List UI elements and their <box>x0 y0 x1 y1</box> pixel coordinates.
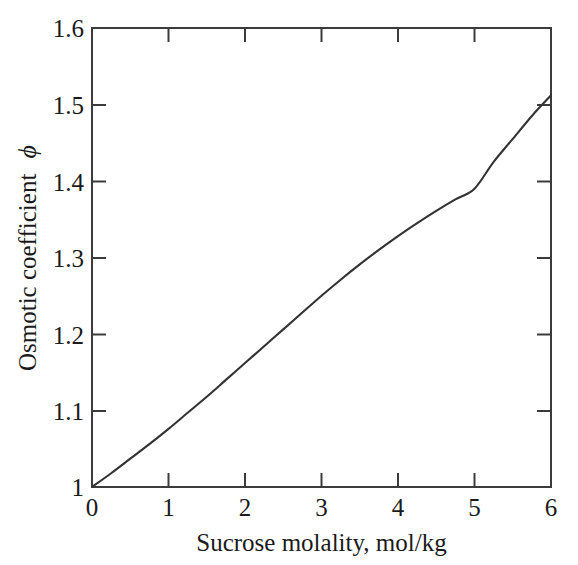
y-tick-label-1-1: 1.1 <box>53 398 84 425</box>
chart-background <box>0 0 578 565</box>
x-tick-label-4: 4 <box>392 494 405 521</box>
y-axis-title: Osmotic coefficient ϕ <box>13 145 42 371</box>
y-tick-label-1-4: 1.4 <box>53 169 85 196</box>
osmotic-coefficient-line-chart: 1.6 1.5 1.4 1.3 1.2 1.1 1 0 1 2 3 4 5 6 … <box>0 0 578 565</box>
x-tick-label-1: 1 <box>162 494 175 521</box>
x-tick-label-0: 0 <box>86 494 99 521</box>
x-axis-title: Sucrose molality, mol/kg <box>196 529 447 556</box>
y-axis-title-symbol: ϕ <box>13 145 42 158</box>
y-tick-label-1-3: 1.3 <box>53 245 84 272</box>
x-tick-label-5: 5 <box>468 494 481 521</box>
y-axis-title-text: Osmotic coefficient <box>14 174 41 371</box>
y-axis-title-group: Osmotic coefficient ϕ <box>13 145 42 371</box>
y-tick-label-1-0: 1 <box>72 474 85 501</box>
chart-figure: 1.6 1.5 1.4 1.3 1.2 1.1 1 0 1 2 3 4 5 6 … <box>0 0 578 565</box>
y-tick-label-1-2: 1.2 <box>53 322 84 349</box>
y-tick-label-1-5: 1.5 <box>53 92 84 119</box>
x-tick-label-6: 6 <box>545 494 558 521</box>
y-tick-label-1-6: 1.6 <box>53 15 84 42</box>
x-tick-label-3: 3 <box>315 494 328 521</box>
x-tick-label-2: 2 <box>239 494 252 521</box>
